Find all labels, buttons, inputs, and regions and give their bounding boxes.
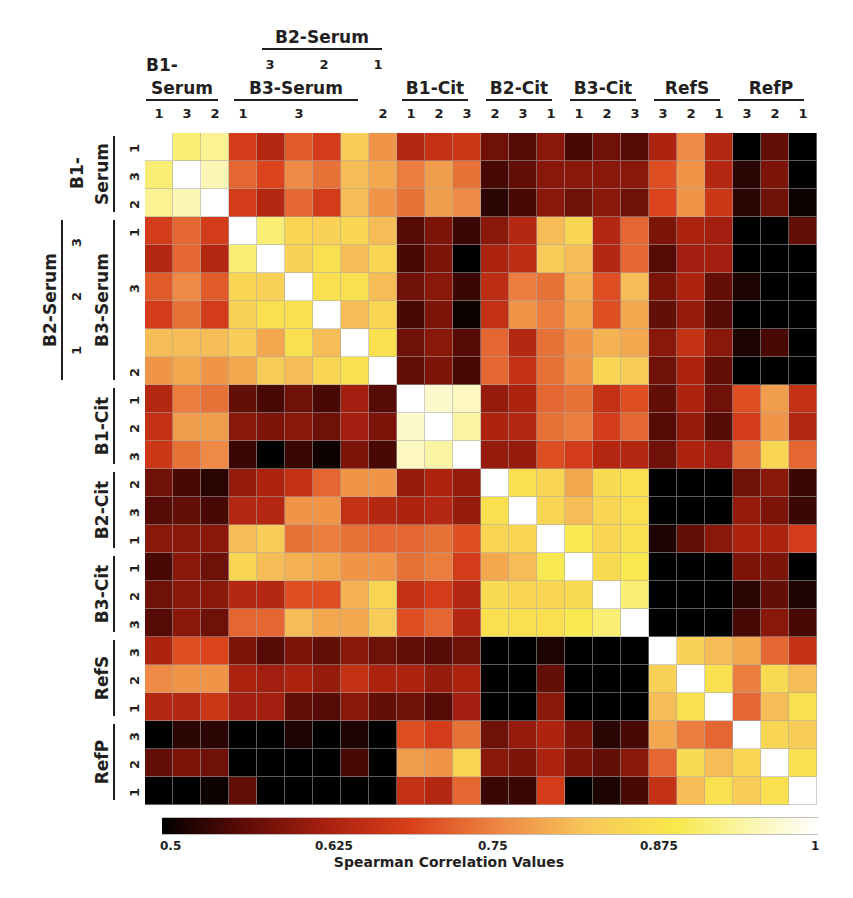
heatmap-cell: [481, 777, 509, 805]
heatmap-cell: [257, 385, 285, 413]
heatmap-cell: [145, 637, 173, 665]
b2-serum-tick-2: 2: [310, 57, 338, 72]
heatmap-cell: [173, 329, 201, 357]
heatmap-cell: [621, 217, 649, 245]
heatmap-cell: [677, 581, 705, 609]
heatmap-cell: [369, 245, 397, 273]
row-group-label: Serum: [93, 136, 115, 212]
heatmap-cell: [537, 777, 565, 805]
heatmap-cell: [677, 553, 705, 581]
heatmap-cell: [593, 581, 621, 609]
heatmap-cell: [509, 721, 537, 749]
heatmap-cell: [649, 329, 677, 357]
heatmap-cell: [369, 721, 397, 749]
heatmap-cell: [733, 749, 761, 777]
heatmap-cell: [621, 245, 649, 273]
row-tick: 2: [127, 359, 142, 387]
heatmap-cell: [509, 217, 537, 245]
heatmap-cell: [481, 357, 509, 385]
heatmap-cell: [705, 525, 733, 553]
heatmap-cell: [257, 721, 285, 749]
heatmap-cell: [677, 721, 705, 749]
heatmap-cell: [145, 385, 173, 413]
heatmap-cell: [453, 245, 481, 273]
b2-serum-row-tick: 3: [69, 229, 84, 257]
heatmap-cell: [285, 245, 313, 273]
heatmap-cell: [537, 665, 565, 693]
heatmap-cell: [173, 385, 201, 413]
heatmap-cell: [341, 777, 369, 805]
heatmap-cell: [201, 553, 229, 581]
heatmap-cell: [789, 553, 817, 581]
b2-serum-tick-1: 1: [364, 57, 392, 72]
heatmap-cell: [649, 581, 677, 609]
heatmap-cell: [425, 245, 453, 273]
heatmap-cell: [369, 217, 397, 245]
heatmap-cell: [397, 693, 425, 721]
heatmap-cell: [145, 161, 173, 189]
heatmap-cell: [761, 581, 789, 609]
heatmap-cell: [453, 469, 481, 497]
row-tick: 3: [127, 611, 142, 639]
heatmap-cell: [481, 161, 509, 189]
heatmap-cell: [425, 777, 453, 805]
heatmap-cell: [257, 301, 285, 329]
heatmap-cell: [285, 665, 313, 693]
heatmap-cell: [789, 441, 817, 469]
heatmap-cell: [173, 413, 201, 441]
heatmap-cell: [621, 609, 649, 637]
heatmap-cell: [201, 385, 229, 413]
heatmap-cell: [229, 525, 257, 553]
heatmap-cell: [397, 637, 425, 665]
heatmap-cell: [369, 441, 397, 469]
heatmap-cell: [453, 609, 481, 637]
heatmap-cell: [761, 553, 789, 581]
heatmap-cell: [677, 777, 705, 805]
heatmap-cell: [453, 441, 481, 469]
heatmap-cell: [705, 469, 733, 497]
heatmap-cell: [565, 329, 593, 357]
heatmap-cell: [537, 637, 565, 665]
heatmap-cell: [397, 413, 425, 441]
heatmap-cell: [593, 329, 621, 357]
heatmap-cell: [257, 497, 285, 525]
heatmap-cell: [537, 469, 565, 497]
heatmap-cell: [397, 721, 425, 749]
column-tick: 1: [565, 106, 593, 121]
heatmap-cell: [621, 189, 649, 217]
heatmap-cell: [733, 301, 761, 329]
heatmap-cell: [565, 553, 593, 581]
heatmap-cell: [201, 161, 229, 189]
heatmap-cell: [341, 665, 369, 693]
heatmap-cell: [229, 637, 257, 665]
heatmap-cell: [565, 469, 593, 497]
heatmap-cell: [173, 609, 201, 637]
heatmap-cell: [537, 357, 565, 385]
heatmap-cell: [341, 525, 369, 553]
heatmap-cell: [229, 273, 257, 301]
heatmap-cell: [145, 301, 173, 329]
heatmap-cell: [593, 217, 621, 245]
heatmap-cell: [761, 721, 789, 749]
heatmap-cell: [313, 357, 341, 385]
heatmap-cell: [537, 413, 565, 441]
heatmap-cell: [341, 637, 369, 665]
heatmap-cell: [425, 329, 453, 357]
heatmap-cell: [705, 777, 733, 805]
heatmap-cell: [145, 469, 173, 497]
heatmap-cell: [509, 301, 537, 329]
row-tick: 3: [127, 275, 142, 303]
heatmap-cell: [621, 637, 649, 665]
heatmap-cell: [705, 301, 733, 329]
heatmap-cell: [761, 777, 789, 805]
heatmap-cell: [201, 665, 229, 693]
heatmap-cell: [257, 133, 285, 161]
heatmap-cell: [537, 609, 565, 637]
heatmap-cell: [789, 273, 817, 301]
heatmap-cell: [229, 357, 257, 385]
column-tick: 1: [229, 106, 257, 121]
heatmap-cell: [677, 133, 705, 161]
heatmap-cell: [257, 609, 285, 637]
column-tick: 3: [621, 106, 649, 121]
heatmap-cell: [593, 525, 621, 553]
